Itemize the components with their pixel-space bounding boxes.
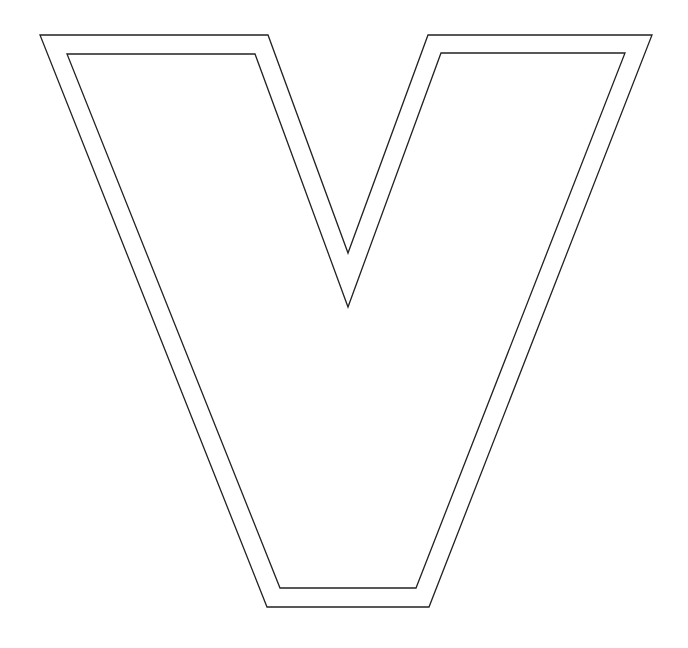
letter-v-figure [0,0,688,648]
coloring-page-canvas: V [0,0,688,648]
